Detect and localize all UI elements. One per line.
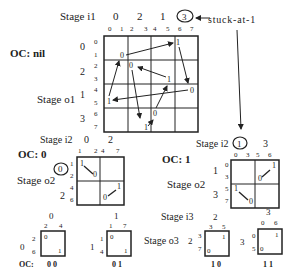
svg-text:2: 2 (60, 190, 65, 201)
diagram-canvas: Stage i1 0 2 1 3 stuck-at-1 0 1 2 3 4 5 … (0, 0, 304, 276)
top-col-labels: 0 1 2 3 4 5 6 7 (108, 25, 194, 33)
svg-text:4: 4 (100, 248, 104, 256)
left-group-labels: 0 2 1 3 (80, 41, 85, 124)
svg-text:1: 1 (144, 123, 148, 132)
svg-text:6: 6 (70, 196, 74, 204)
svg-text:7: 7 (116, 147, 120, 155)
svg-text:1: 1 (234, 184, 238, 193)
svg-text:2: 2 (130, 25, 134, 33)
top-group-2: 1 (160, 10, 166, 22)
svg-text:0: 0 (234, 151, 238, 159)
svg-text:0: 0 (58, 164, 63, 174)
leaf-01: 1 1 7 1 1 4 0 1 0 1 (90, 211, 131, 269)
svg-text:1: 1 (167, 75, 171, 84)
svg-text:6: 6 (94, 110, 98, 118)
oc-prefix: OC: (19, 260, 34, 269)
svg-text:0: 0 (190, 86, 194, 95)
svg-text:7: 7 (123, 222, 127, 230)
svg-text:0 0: 0 0 (47, 260, 57, 269)
svg-text:6: 6 (32, 248, 36, 256)
fault-propagation-arrow (237, 30, 241, 129)
subgrid-oc1: Stage i2 1 3 0 3 5 6 OC: 1 1 Stage o2 3 … (162, 137, 279, 208)
main-grid: Stage i1 0 2 1 3 stuck-at-1 0 1 2 3 4 5 … (10, 10, 256, 132)
svg-text:0 1: 0 1 (112, 260, 122, 269)
stage-i2-label-left: Stage i2 (40, 134, 73, 145)
oc-nil-label: OC: nil (10, 47, 45, 59)
leaf-00: 0 2 4 0 2 6 0 1 OC: 0 0 (19, 211, 65, 269)
svg-text:3: 3 (209, 223, 213, 231)
svg-text:1: 1 (272, 161, 276, 170)
svg-text:2: 2 (94, 62, 98, 70)
stage-i1-label: Stage i1 (60, 10, 96, 22)
svg-text:3: 3 (246, 151, 250, 159)
svg-text:4: 4 (101, 147, 105, 155)
svg-text:0: 0 (80, 41, 85, 52)
stage-i2-label-right: Stage i2 (196, 138, 229, 149)
subgrid-oc0: Stage i2 0 2 1 2 4 7 OC: 0 0 Stage o2 2 … (17, 134, 124, 205)
svg-text:1: 1 (176, 38, 180, 47)
svg-text:1: 1 (109, 222, 113, 230)
fault-tree-diagram: Stage i1 0 2 1 3 stuck-at-1 0 1 2 3 4 5 … (0, 0, 304, 276)
svg-text:5: 5 (256, 151, 260, 159)
svg-text:7: 7 (94, 123, 98, 131)
svg-text:6: 6 (274, 219, 278, 227)
svg-text:3: 3 (225, 173, 229, 181)
svg-text:5: 5 (225, 185, 229, 193)
svg-text:2: 2 (80, 66, 85, 77)
svg-text:1: 1 (275, 231, 279, 239)
top-group-0: 0 (113, 10, 119, 22)
svg-text:3: 3 (198, 232, 202, 240)
stage-o2-label-right: Stage o2 (167, 178, 205, 190)
svg-text:2: 2 (213, 212, 218, 222)
svg-text:0: 0 (49, 211, 54, 221)
svg-text:6: 6 (268, 151, 272, 159)
svg-text:0: 0 (93, 170, 97, 179)
leaf-11: 3 0 6 3 0 5 1 0 1 1 (240, 207, 282, 269)
svg-text:7: 7 (225, 197, 229, 205)
svg-text:0: 0 (129, 61, 133, 70)
svg-text:5: 5 (252, 245, 256, 253)
svg-text:1: 1 (222, 233, 226, 241)
svg-text:7: 7 (198, 245, 202, 253)
svg-text:3: 3 (263, 138, 268, 149)
oc-1-label: OC: 1 (162, 153, 190, 165)
svg-text:3: 3 (266, 207, 271, 217)
svg-text:4: 4 (94, 86, 98, 94)
svg-text:5: 5 (222, 223, 226, 231)
svg-text:4: 4 (70, 184, 74, 192)
svg-text:0: 0 (225, 161, 229, 169)
svg-text:5: 5 (94, 99, 98, 107)
leaf-10: Stage i3 2 3 5 Stage o3 2 3 7 1 0 1 0 (144, 211, 229, 269)
stage-o3-label: Stage o3 (144, 235, 179, 246)
svg-text:5: 5 (166, 25, 170, 33)
fault-label: stuck-at-1 (208, 14, 256, 25)
top-group-1: 2 (137, 10, 143, 22)
svg-text:1: 1 (237, 139, 242, 149)
svg-text:3: 3 (213, 189, 218, 200)
main-grid-lines (104, 36, 198, 132)
svg-text:1: 1 (120, 25, 124, 33)
svg-text:0: 0 (252, 232, 256, 240)
svg-text:1: 1 (80, 89, 85, 100)
svg-text:2: 2 (94, 147, 98, 155)
svg-text:1 0: 1 0 (211, 260, 221, 269)
svg-text:1: 1 (70, 160, 74, 168)
svg-text:3: 3 (144, 25, 148, 33)
svg-text:1: 1 (213, 165, 218, 176)
svg-text:0: 0 (261, 219, 265, 227)
svg-text:3: 3 (240, 237, 245, 247)
svg-text:2: 2 (32, 235, 36, 243)
svg-text:0: 0 (249, 197, 253, 206)
sub0-top-group-0: 0 (84, 134, 89, 145)
svg-text:0: 0 (260, 245, 264, 253)
svg-text:1: 1 (100, 235, 104, 243)
svg-text:2: 2 (70, 172, 74, 180)
sub0-top-group-1: 2 (108, 134, 113, 145)
svg-text:4: 4 (59, 222, 63, 230)
svg-text:1: 1 (117, 182, 121, 191)
svg-text:0: 0 (44, 233, 48, 241)
svg-text:1: 1 (90, 242, 95, 252)
svg-text:2: 2 (44, 222, 48, 230)
svg-text:1: 1 (124, 247, 128, 255)
svg-text:4: 4 (153, 25, 157, 33)
